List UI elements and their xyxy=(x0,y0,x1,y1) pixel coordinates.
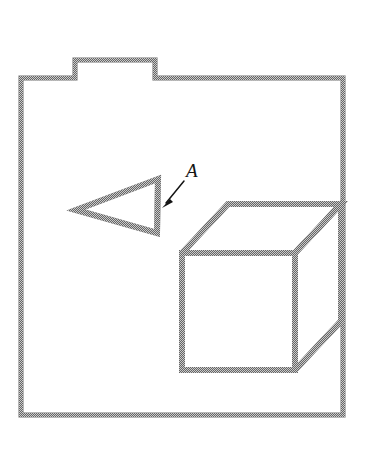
optics-figure: A xyxy=(0,0,370,465)
cube xyxy=(0,0,370,465)
label-a: A xyxy=(186,161,198,180)
figure-canvas xyxy=(0,0,370,465)
